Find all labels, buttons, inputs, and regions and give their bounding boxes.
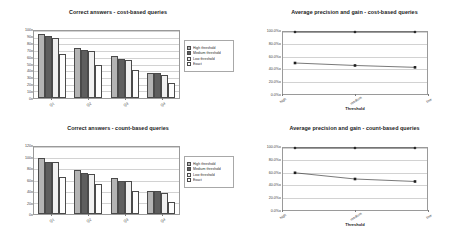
y-tick-label: 100.0% — [267, 29, 279, 33]
y-tick-label: 0.0% — [271, 209, 279, 213]
bar — [81, 173, 88, 214]
bar — [125, 60, 132, 98]
data-point — [413, 146, 416, 149]
x-tick-label: Q4 — [160, 102, 166, 108]
legend-swatch — [187, 62, 191, 66]
bar — [132, 70, 139, 98]
x-tick-mark — [51, 214, 52, 216]
data-point — [413, 30, 416, 33]
bar — [161, 75, 168, 98]
bar — [95, 65, 102, 98]
y-tick-mark — [279, 69, 281, 70]
plot-area — [282, 31, 428, 95]
bar-groups — [34, 31, 179, 98]
bar-groups — [34, 147, 179, 214]
chart-title: Average precision and gain - cost-based … — [236, 9, 473, 15]
legend-swatch — [187, 173, 191, 177]
data-point — [294, 62, 297, 65]
data-point — [293, 146, 296, 149]
plot-area — [282, 147, 428, 211]
legend-label: High threshold — [193, 162, 216, 166]
legend-swatch — [187, 57, 191, 61]
bar — [45, 162, 52, 214]
data-point — [414, 66, 417, 69]
bar — [147, 191, 154, 214]
x-tick-mark — [162, 214, 163, 216]
legend-item[interactable]: Medium threshold — [187, 167, 231, 171]
legend-item[interactable]: Medium threshold — [187, 51, 231, 55]
bar — [88, 51, 95, 98]
chart-title: Average precision and gain - count-based… — [236, 125, 473, 131]
x-tick-label: Q2 — [86, 218, 92, 224]
chart-title: Correct answers - cost-based queries — [0, 9, 236, 15]
bar — [59, 54, 66, 98]
legend-swatch — [187, 178, 191, 182]
y-tick-mark — [279, 185, 281, 186]
legend-label: Low threshold — [193, 57, 215, 61]
y-axis-ticks: 0.0%20.0%40.0%60.0%80.0%100.0% — [248, 31, 279, 95]
y-tick-label: 100.0% — [267, 145, 279, 149]
y-tick-mark — [279, 147, 281, 148]
x-tick-mark — [51, 98, 52, 100]
bar — [161, 193, 168, 214]
bar — [59, 177, 66, 214]
data-point — [353, 30, 356, 33]
y-axis-ticks: 0.0%20.0%40.0%60.0%80.0%100.0% — [248, 147, 279, 211]
legend-item[interactable]: Low threshold — [187, 57, 231, 61]
legend-label: High threshold — [193, 46, 216, 50]
x-tick-mark — [162, 98, 163, 100]
x-axis-title: Threshold — [282, 106, 428, 111]
bar — [74, 48, 81, 98]
x-tick-mark — [355, 94, 356, 96]
bar — [125, 181, 132, 214]
legend-item[interactable]: Exact — [187, 178, 231, 182]
x-tick-label: high — [279, 213, 287, 220]
bar — [111, 178, 118, 214]
legend-item[interactable]: Exact — [187, 62, 231, 66]
x-tick-label: medium — [350, 96, 363, 106]
x-tick-mark — [428, 94, 429, 96]
y-tick-mark — [279, 95, 281, 96]
plot-area — [33, 146, 180, 215]
data-point — [354, 178, 357, 181]
chart-panel-top-right: Average precision and gain - cost-based … — [236, 0, 473, 116]
x-tick-mark — [125, 98, 126, 100]
legend-item[interactable]: High threshold — [187, 46, 231, 50]
bar — [118, 181, 125, 215]
x-tick-label: Q3 — [123, 218, 129, 224]
legend-label: Medium threshold — [193, 51, 221, 55]
chart-legend: High thresholdMedium thresholdLow thresh… — [184, 40, 234, 72]
bar — [45, 36, 52, 98]
y-tick-mark — [279, 82, 281, 83]
data-point — [294, 172, 297, 175]
bar — [74, 170, 81, 214]
bar — [168, 202, 175, 214]
legend-label: Medium threshold — [193, 167, 221, 171]
y-tick-mark — [279, 43, 281, 44]
x-tick-label: medium — [350, 212, 363, 222]
bar-group — [143, 31, 179, 98]
bar — [38, 34, 45, 98]
x-tick-label: Q1 — [49, 218, 55, 224]
line-series — [283, 148, 427, 210]
data-point — [353, 146, 356, 149]
chart-panel-top-left: Correct answers - cost-based queries 010… — [0, 0, 236, 116]
legend-item[interactable]: Low threshold — [187, 173, 231, 177]
legend-item[interactable]: High threshold — [187, 162, 231, 166]
x-tick-mark — [88, 214, 89, 216]
y-axis-ticks: 020406080100120 — [0, 146, 31, 215]
bar-group — [70, 31, 106, 98]
plot-area — [33, 30, 180, 99]
bar-group — [107, 147, 143, 214]
bar-group — [107, 31, 143, 98]
chart-legend: High thresholdMedium thresholdLow thresh… — [184, 156, 234, 188]
y-tick-mark — [279, 211, 281, 212]
bar — [38, 158, 45, 214]
figure-grid: Correct answers - cost-based queries 010… — [0, 0, 473, 232]
x-tick-label: Q2 — [86, 102, 92, 108]
bar-group — [34, 147, 70, 214]
bar — [132, 191, 139, 214]
bar — [147, 73, 154, 98]
bar — [118, 59, 125, 98]
x-tick-label: high — [279, 97, 287, 104]
